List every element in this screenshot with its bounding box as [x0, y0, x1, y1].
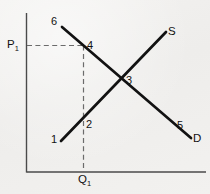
diagram-canvas	[0, 0, 210, 194]
supply-curve-label: S	[168, 26, 176, 37]
quantity-axis-label-text: Q	[78, 173, 87, 185]
price-axis-label-text: P	[7, 38, 15, 50]
point-4-label: 4	[87, 40, 93, 51]
supply-curve	[61, 32, 166, 141]
point-5-label: 5	[177, 120, 183, 131]
point-2-label: 2	[86, 119, 92, 130]
price-axis-label-sub: 1	[15, 44, 19, 53]
demand-curve-label: D	[193, 133, 201, 144]
quantity-axis-label: Q1	[78, 174, 91, 188]
point-1-label: 1	[51, 134, 57, 145]
point-6-label: 6	[51, 16, 57, 27]
price-axis-label: P1	[7, 39, 19, 53]
point-3-label: 3	[126, 75, 132, 86]
supply-demand-figure: P1 Q1 6 4 3 2 1 5 S D	[0, 0, 210, 194]
quantity-axis-label-sub: 1	[87, 179, 91, 188]
